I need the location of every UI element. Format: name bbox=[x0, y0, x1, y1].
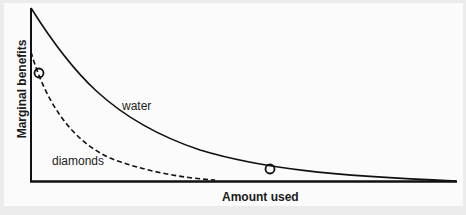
x-axis-label: Amount used bbox=[222, 190, 299, 204]
chart-svg bbox=[0, 0, 466, 215]
diamonds-label: diamonds bbox=[52, 154, 104, 168]
water-label: water bbox=[122, 99, 151, 113]
y-axis-label: Marginal benefits bbox=[15, 29, 29, 149]
